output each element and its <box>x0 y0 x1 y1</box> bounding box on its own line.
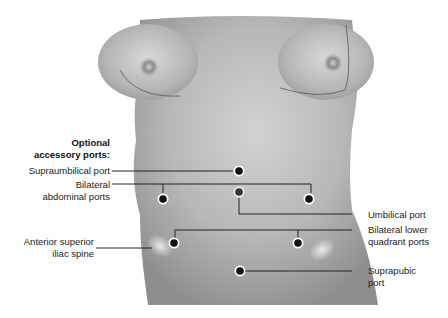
lower-quadrant-port-left <box>169 238 180 249</box>
label-umbilical: Umbilical port <box>368 209 426 221</box>
left-nipple <box>139 57 159 77</box>
label-bilateral-lower: Bilateral lower quadrant ports <box>368 224 429 247</box>
abdominal-port-left <box>158 194 169 205</box>
supraumbilical-port <box>234 166 245 177</box>
abdominal-port-right <box>304 194 315 205</box>
right-nipple <box>323 53 343 73</box>
label-suprapubic: Suprapubic port <box>368 265 416 288</box>
label-asis: Anterior superior iliac spine <box>24 236 94 259</box>
lower-quadrant-port-right <box>293 238 304 249</box>
label-supraumbilical: Supraumbilical port <box>29 165 110 177</box>
umbilical-port <box>234 187 245 198</box>
optional-ports-heading: Optional accessory ports: <box>34 137 110 160</box>
suprapubic-port <box>235 266 246 277</box>
laparoscopic-port-diagram: Optional accessory ports: Supraumbilical… <box>0 0 448 318</box>
label-bilateral-abdominal: Bilateral abdominal ports <box>42 179 110 202</box>
